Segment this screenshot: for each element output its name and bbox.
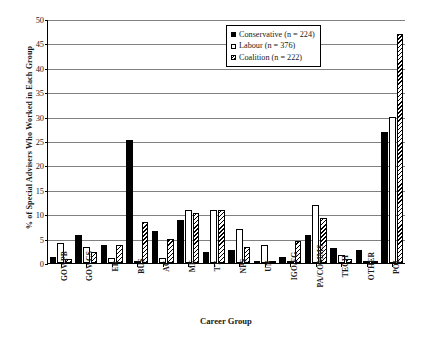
x-tick-label-cell: ME [175,266,201,318]
bar-group [48,20,74,263]
bar [126,140,133,263]
y-axis-title: % of Special Advisers Who Worked in Each… [25,13,34,263]
legend-label-coalition: Coalition (n = 222) [239,52,302,63]
bar [203,252,210,263]
bar [193,213,200,263]
legend: Conservative (n = 224) Labour (n = 376) … [226,25,321,67]
bar [210,210,217,263]
x-tick-label: POL [392,258,401,274]
bar-group [176,20,202,263]
y-tick-label: 5 [40,235,44,244]
x-tick-label: TT [213,261,222,272]
x-tick-label: PA/COMMS [316,244,325,287]
bar [381,132,388,263]
bar [389,117,396,263]
x-tick-label-cell: IGO/FG [277,266,303,318]
y-tick-label: 10 [36,211,44,220]
x-tick-label: ME [188,260,197,273]
legend-label-labour: Labour (n = 376) [239,40,295,51]
bar [397,34,404,263]
x-tick-label-cell: UN [252,266,278,318]
bar [152,231,159,263]
bar-group [99,20,125,263]
legend-swatch-labour-icon [231,44,236,49]
bar [218,210,225,263]
legend-item-labour: Labour (n = 376) [231,40,315,51]
x-tick-label-cell: POL [380,266,406,318]
bar [75,235,82,263]
y-tick-label: 30 [36,113,44,122]
bar [177,220,184,263]
x-tick-label-cell: OTHER [354,266,380,318]
legend-label-conservative: Conservative (n = 224) [239,29,315,40]
x-tick-label: GOV-PB [60,251,69,281]
x-tick-label-cell: GOV-PB [47,266,73,318]
x-tick-label: OTHER [367,252,376,280]
y-tick-label: 35 [36,89,44,98]
legend-swatch-coalition-icon [231,55,236,60]
bar [356,250,363,263]
x-tick-label-cell: TECH [328,266,354,318]
x-tick-label-cell: TT [200,266,226,318]
bar [254,261,261,263]
bar-group [354,20,380,263]
x-tick-label-cell: BUS [124,266,150,318]
legend-swatch-conservative-icon [231,32,236,37]
x-axis-tick-labels: GOV-PBGOV-CSERBUSACMETTNPSUNIGO/FGPA/COM… [47,266,405,318]
y-tick-label: 20 [36,162,44,171]
bar-group [329,20,355,263]
x-tick-label-cell: AC [149,266,175,318]
bar [330,248,337,263]
x-tick-label: IGO/FG [290,252,299,281]
bar [228,250,235,263]
y-tick-label: 50 [36,16,44,25]
bar [305,235,312,263]
legend-item-coalition: Coalition (n = 222) [231,52,315,63]
x-tick-label-cell: NPS [226,266,252,318]
bar-group [150,20,176,263]
x-axis-title: Career Group [47,316,405,326]
x-tick-label: AC [162,260,171,271]
x-tick-label: BUS [137,258,146,273]
x-tick-label: GOV-CS [85,251,94,281]
bar [185,210,192,263]
y-tick-label: 25 [36,138,44,147]
bar-group [125,20,151,263]
bar [279,257,286,263]
x-tick-label-cell: GOV-CS [73,266,99,318]
x-tick-label-cell: ER [98,266,124,318]
bar [101,245,108,263]
bar-group [74,20,100,263]
x-tick-label: TECH [341,255,350,277]
y-tick-label: 15 [36,186,44,195]
bar-group [380,20,406,263]
bar-chart: % of Special Advisers Who Worked in Each… [0,0,422,337]
y-tick-mark [45,264,48,265]
y-tick-label: 0 [40,260,44,269]
bar [142,222,149,263]
x-tick-label-cell: PA/COMMS [303,266,329,318]
y-tick-label: 40 [36,64,44,73]
y-tick-label: 45 [36,40,44,49]
x-tick-label: ER [111,261,120,272]
x-tick-label: UN [264,260,273,271]
legend-item-conservative: Conservative (n = 224) [231,29,315,40]
bar [50,257,57,263]
x-tick-label: NPS [239,259,248,274]
bar-group [201,20,227,263]
